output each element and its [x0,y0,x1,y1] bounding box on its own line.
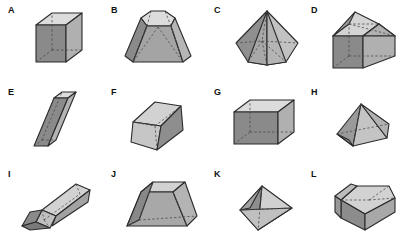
hexagonal-frustum-shape [103,0,206,82]
shape-cell-d: D [303,0,412,82]
shape-cell-g: G [206,82,309,164]
shape-cell-l: L [303,164,412,246]
tetrahedron-shape [206,164,309,246]
shape-cell-j: J [103,164,206,246]
shape-cell-h: H [303,82,412,164]
tilted-cube-shape [103,82,206,164]
shape-cell-k: K [206,164,309,246]
house-prism-shape [303,0,412,82]
shape-cell-b: B [103,0,206,82]
pentagonal-prism-shape [303,164,412,246]
elongated-prism-shape [0,164,103,246]
rectangular-box-shape [206,82,309,164]
cube-shape [0,0,103,82]
oblique-prism-shape [0,82,103,164]
geometric-solids-figure: A B [0,0,412,246]
hexagonal-pyramid-shape [206,0,309,82]
shape-cell-e: E [0,82,103,164]
shape-cell-i: I [0,164,103,246]
shape-cell-a: A [0,0,103,82]
shape-cell-f: F [103,82,206,164]
low-rectangular-pyramid-shape [303,82,412,164]
shape-cell-c: C [206,0,309,82]
square-frustum-shape [103,164,206,246]
